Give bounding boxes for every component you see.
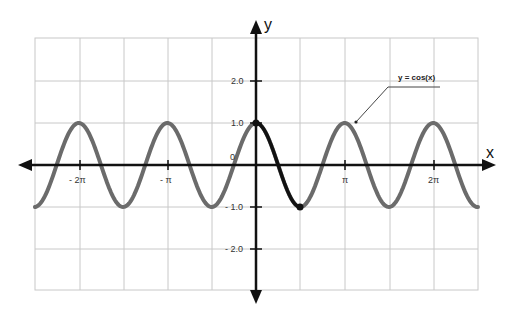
x-axis-left-arrow-icon: [18, 159, 32, 171]
curve-annotation: y = cos(x): [398, 73, 435, 82]
y-axis: [250, 26, 262, 296]
origin-label: 0: [230, 152, 235, 162]
annotation-leader-line: [356, 87, 440, 122]
x-axis-label: x: [486, 144, 494, 161]
x-tick-label: 2π: [428, 175, 439, 185]
x-tick-label: - π: [160, 175, 172, 185]
point-min: [297, 204, 304, 211]
y-tick-label: - 1.0: [225, 202, 243, 212]
y-axis-down-arrow-icon: [250, 290, 262, 304]
x-tick-label: π: [342, 175, 348, 185]
x-tick-label: - 2π: [69, 175, 86, 185]
y-tick-label: - 2.0: [225, 244, 243, 254]
annotation-dot: [354, 120, 357, 123]
y-axis-up-arrow-icon: [250, 20, 262, 34]
y-tick-label: 2.0: [231, 76, 244, 86]
y-tick-label: 1.0: [231, 118, 244, 128]
y-axis-label: y: [264, 16, 272, 33]
cosine-chart: y x 0 - 2π - π π 2π 2.0 1.0 - 1.0 - 2.0 …: [0, 0, 514, 317]
